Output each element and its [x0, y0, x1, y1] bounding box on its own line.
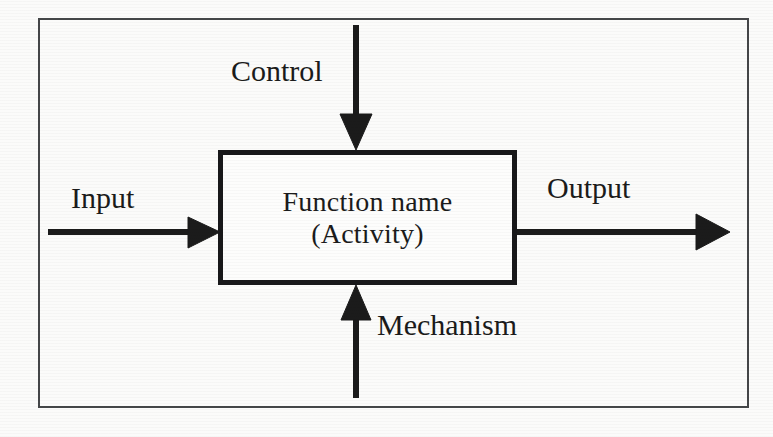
function-name-label: Function name: [283, 186, 453, 218]
output-label: Output: [547, 173, 630, 203]
mechanism-label: Mechanism: [377, 310, 517, 340]
idef0-diagram-canvas: Function name (Activity) Control Input O…: [0, 0, 773, 437]
input-label: Input: [71, 183, 134, 213]
function-activity-label: (Activity): [311, 218, 423, 250]
control-label: Control: [231, 56, 323, 86]
function-box: Function name (Activity): [218, 150, 517, 285]
